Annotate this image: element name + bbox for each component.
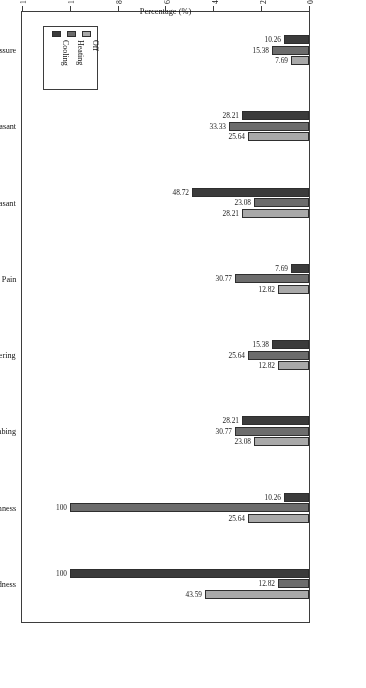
bar-group-numbing: 23.0830.7728.21Numbing [22,393,309,469]
chart-legend: OffHeatingCooling [43,26,98,90]
bar-value-label: 48.72 [173,188,189,198]
bar-coldness-cooling[interactable] [70,569,309,578]
bar-value-label: 25.64 [228,351,244,361]
bar-pressure-off[interactable] [291,56,309,65]
x-axis-tick-label: 20 [259,0,268,4]
bar-row: 25.64 [22,351,309,360]
bar-row: 23.08 [22,437,309,446]
x-axis-tick-label: 100 [67,0,76,4]
bar-group-lingering: 12.8225.6415.38Lingering [22,317,309,393]
bar-value-label: 15.38 [253,340,269,350]
bar-value-label: 7.69 [275,56,288,66]
bar-warmness-heating[interactable] [70,503,309,512]
bar-value-label: 100 [56,569,67,579]
legend-label-heating: Heating [76,40,85,65]
bar-lingering-heating[interactable] [248,351,309,360]
bar-group-unpleasant: 25.6433.3328.21Unpleasant [22,88,309,164]
x-axis-tick-label: 40 [211,0,220,4]
bar-pain-heating[interactable] [235,274,309,283]
bar-value-label: 30.77 [216,427,232,437]
bars-layer: 43.5912.82100Coldness25.6410010.26Warmne… [22,12,309,622]
bar-numbing-heating[interactable] [235,427,309,436]
bar-value-label: 12.82 [259,361,275,371]
legend-label-cooling: Cooling [61,40,70,66]
bar-row: 12.82 [22,361,309,370]
bar-row: 28.21 [22,111,309,120]
bar-row: 28.21 [22,416,309,425]
bar-row: 30.77 [22,427,309,436]
bar-warmness-cooling[interactable] [284,493,309,502]
category-label-pressure: Pressure [0,46,16,55]
x-axis-tick-label: 80 [115,0,124,4]
bar-lingering-off[interactable] [278,361,309,370]
bar-group-coldness: 43.5912.82100Coldness [22,546,309,622]
category-label-coldness: Coldness [0,580,16,589]
bar-row: 10.26 [22,493,309,502]
bar-unpleasant-heating[interactable] [229,122,309,131]
bar-value-label: 28.21 [222,209,238,219]
x-axis-title: Percentage (%) [21,7,310,16]
bar-pain-cooling[interactable] [291,264,309,273]
bar-row: 25.64 [22,514,309,523]
legend-swatch-off [82,31,91,37]
bar-value-label: 30.77 [216,274,232,284]
legend-item-cooling[interactable]: Cooling [49,31,61,85]
bar-row: 30.77 [22,274,309,283]
bar-group-pleasant: 28.2123.0848.72Pleasant [22,165,309,241]
bar-row: 43.59 [22,590,309,599]
legend-swatch-cooling [52,31,61,37]
bar-pleasant-cooling[interactable] [192,188,309,197]
bar-row: 100 [22,503,309,512]
category-label-lingering: Lingering [0,351,16,360]
bar-row: 28.21 [22,209,309,218]
x-axis-tick-label: 60 [163,0,172,4]
bar-pleasant-off[interactable] [242,209,309,218]
x-axis-tick-label: 0 [307,0,316,4]
bar-value-label: 12.82 [259,285,275,295]
bar-value-label: 25.64 [228,132,244,142]
legend-label-off: Off [91,40,100,51]
category-label-pleasant: Pleasant [0,199,16,208]
bar-value-label: 25.64 [228,514,244,524]
bar-value-label: 23.08 [234,437,250,447]
bar-pressure-heating[interactable] [272,46,309,55]
bar-value-label: 28.21 [222,416,238,426]
bar-value-label: 28.21 [222,111,238,121]
bar-unpleasant-off[interactable] [248,132,309,141]
bar-value-label: 7.69 [275,264,288,274]
bar-coldness-heating[interactable] [278,579,309,588]
bar-row: 7.69 [22,264,309,273]
bar-row: 15.38 [22,340,309,349]
bar-unpleasant-cooling[interactable] [242,111,309,120]
bar-numbing-off[interactable] [254,437,309,446]
bar-value-label: 10.26 [265,35,281,45]
bar-numbing-cooling[interactable] [242,416,309,425]
category-label-pain: Pain [1,275,16,284]
chart-figure: 43.5912.82100Coldness25.6410010.26Warmne… [0,0,366,688]
bar-pleasant-heating[interactable] [254,198,309,207]
bar-value-label: 100 [56,503,67,513]
bar-value-label: 12.82 [259,579,275,589]
bar-row: 12.82 [22,579,309,588]
x-axis-tick-label: 120 [20,0,29,4]
bar-row: 23.08 [22,198,309,207]
bar-group-pain: 12.8230.777.69Pain [22,241,309,317]
bar-warmness-off[interactable] [248,514,309,523]
bar-coldness-off[interactable] [205,590,309,599]
bar-lingering-cooling[interactable] [272,340,309,349]
bar-value-label: 15.38 [253,46,269,56]
category-label-warmness: Warmness [0,504,16,513]
bar-value-label: 43.59 [185,590,201,600]
bar-pressure-cooling[interactable] [284,35,309,44]
bar-row: 12.82 [22,285,309,294]
bar-row: 48.72 [22,188,309,197]
bar-value-label: 10.26 [265,493,281,503]
category-label-numbing: Numbing [0,427,16,436]
category-label-unpleasant: Unpleasant [0,122,16,131]
bar-pain-off[interactable] [278,285,309,294]
bar-value-label: 33.33 [210,122,226,132]
bar-group-warmness: 25.6410010.26Warmness [22,470,309,546]
bar-row: 100 [22,569,309,578]
bar-value-label: 23.08 [234,198,250,208]
bar-row: 33.33 [22,122,309,131]
